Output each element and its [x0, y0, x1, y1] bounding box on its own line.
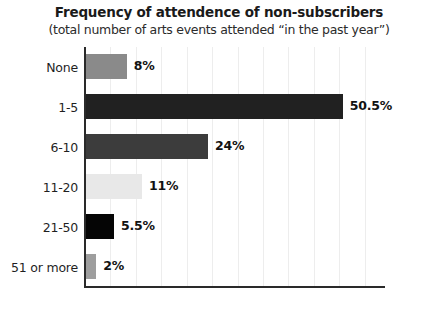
bar-value-label: 50.5%	[350, 98, 392, 113]
page-title: Frequency of attendence of non-subscribe…	[0, 4, 438, 21]
bar-value-label: 2%	[103, 258, 124, 273]
bar-row: 21-505.5%	[0, 207, 438, 247]
bar-value-label: 5.5%	[121, 218, 155, 233]
bar	[86, 254, 96, 279]
title-block: Frequency of attendence of non-subscribe…	[0, 4, 438, 38]
category-label: None	[0, 60, 78, 75]
bar-value-label: 8%	[134, 58, 155, 73]
bar	[86, 54, 127, 79]
bar	[86, 134, 208, 159]
bar-row: None8%	[0, 47, 438, 87]
bar-rows: None8%1-550.5%6-1024%11-2011%21-505.5%51…	[0, 47, 438, 287]
bar-value-label: 11%	[149, 178, 178, 193]
category-label: 1-5	[0, 100, 78, 115]
bar	[86, 94, 343, 119]
bar-row: 6-1024%	[0, 127, 438, 167]
category-label: 6-10	[0, 140, 78, 155]
bar-row: 1-550.5%	[0, 87, 438, 127]
category-label: 11-20	[0, 180, 78, 195]
chart-page: Frequency of attendence of non-subscribe…	[0, 0, 438, 309]
bar-row: 11-2011%	[0, 167, 438, 207]
bar-row: 51 or more2%	[0, 247, 438, 287]
bar-value-label: 24%	[215, 138, 244, 153]
category-label: 51 or more	[0, 260, 78, 275]
category-label: 21-50	[0, 220, 78, 235]
bar	[86, 214, 114, 239]
bar	[86, 174, 142, 199]
chart-subtitle: (total number of arts events attended “i…	[0, 21, 438, 38]
